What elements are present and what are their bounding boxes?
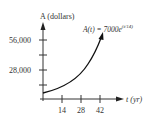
y-tick-label-56000: 56,000 [9,36,31,45]
x-tick-label-14: 14 [58,106,66,115]
y-axis-label: A (dollars) [40,12,74,21]
annotation-base: A(t) = 7000e [83,25,122,34]
x-tick-label-42: 42 [96,106,104,115]
x-tick-label-28: 28 [77,106,85,115]
x-axis-arrow-icon [116,97,124,102]
y-axis-arrow-icon [41,22,46,30]
y-tick-label-28000: 28,000 [9,66,31,75]
curve-annotation: A(t) = 7000e(t/14) [83,22,133,34]
annotation-exponent: (t/14) [122,24,133,29]
exponential-curve [43,38,101,93]
x-axis-label: t (yr) [126,95,142,104]
